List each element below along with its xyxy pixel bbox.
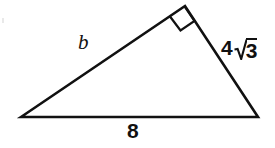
side-label-eight: 8 — [127, 120, 139, 141]
side-label-four-root-three: 4 3 — [221, 37, 257, 60]
side-label-b: b — [78, 32, 89, 53]
coefficient-text: 4 — [221, 37, 233, 58]
radicand-text: 3 — [246, 38, 258, 61]
right-angle-marker — [170, 7, 195, 31]
right-triangle-figure: b 4 3 8 — [0, 0, 275, 148]
triangle-outline — [21, 6, 258, 117]
radical-group: 3 — [234, 37, 258, 60]
